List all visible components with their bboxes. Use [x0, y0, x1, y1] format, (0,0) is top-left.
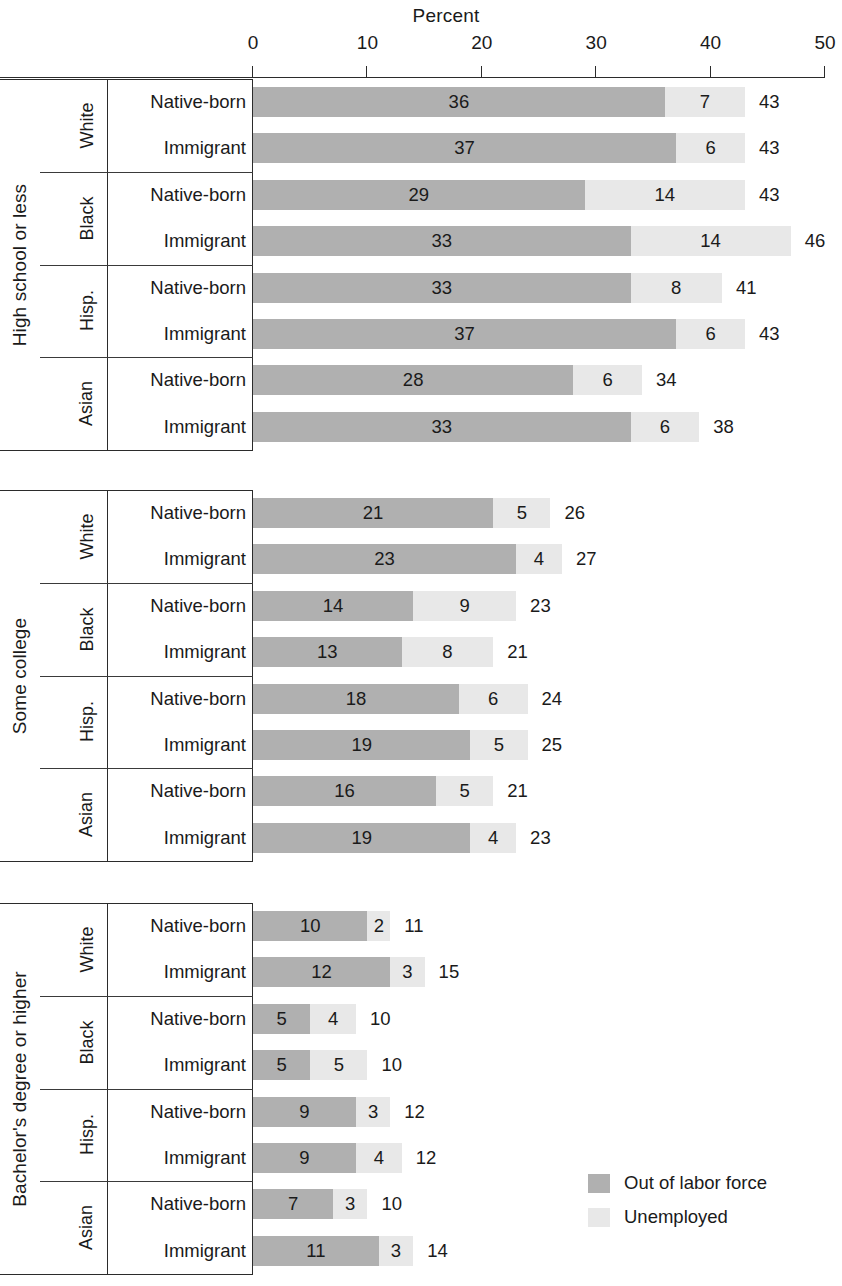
- nativity-label: Immigrant: [112, 536, 246, 582]
- bar-value-unemployed: 5: [474, 730, 524, 760]
- bar-value-total: 21: [507, 637, 528, 667]
- chart-row: Native-born21526: [0, 490, 842, 536]
- bar-value-out-of-labor-force: 29: [394, 180, 444, 210]
- nativity-label: Immigrant: [112, 949, 246, 995]
- chart-row: Immigrant37643: [0, 125, 842, 171]
- bar-value-unemployed: 6: [583, 365, 633, 395]
- section-bottom-rule: [0, 450, 253, 451]
- stacked-bar: [253, 319, 745, 349]
- bar-value-out-of-labor-force: 37: [440, 133, 490, 163]
- chart-row: Native-born9312: [0, 1089, 842, 1135]
- nativity-label: Native-born: [112, 172, 246, 218]
- bar-value-unemployed: 4: [308, 1004, 358, 1034]
- bar-value-total: 10: [370, 1004, 391, 1034]
- bar-value-unemployed: 8: [651, 273, 701, 303]
- bar-value-unemployed: 5: [314, 1050, 364, 1080]
- bar-value-total: 38: [713, 412, 734, 442]
- bar-value-total: 25: [542, 730, 563, 760]
- nativity-label: Native-born: [112, 583, 246, 629]
- bar-value-unemployed: 7: [680, 87, 730, 117]
- stacked-bar-chart: Percent01020304050High school or lessWhi…: [0, 0, 842, 1286]
- nativity-label: Native-born: [112, 903, 246, 949]
- bar-value-unemployed: 14: [686, 226, 736, 256]
- nativity-label: Immigrant: [112, 218, 246, 264]
- chart-row: Native-born14923: [0, 583, 842, 629]
- stacked-bar: [253, 133, 745, 163]
- bar-value-out-of-labor-force: 5: [257, 1050, 307, 1080]
- bar-value-out-of-labor-force: 9: [279, 1097, 329, 1127]
- chart-row: Immigrant23427: [0, 536, 842, 582]
- bar-value-total: 14: [427, 1236, 448, 1266]
- legend-item: Out of labor force: [588, 1168, 838, 1198]
- bar-value-total: 43: [759, 133, 780, 163]
- legend-label: Unemployed: [624, 1206, 728, 1228]
- nativity-label: Immigrant: [112, 1228, 246, 1274]
- chart-row: Immigrant5510: [0, 1042, 842, 1088]
- chart-row: Native-born16521: [0, 768, 842, 814]
- bar-value-total: 23: [530, 591, 551, 621]
- chart-axis-title: Percent: [0, 5, 842, 27]
- bar-value-out-of-labor-force: 33: [417, 273, 467, 303]
- bar-value-unemployed: 6: [686, 319, 736, 349]
- nativity-label: Native-born: [112, 996, 246, 1042]
- chart-row: Immigrant331446: [0, 218, 842, 264]
- nativity-label: Immigrant: [112, 125, 246, 171]
- bar-value-out-of-labor-force: 33: [417, 226, 467, 256]
- bar-value-unemployed: 6: [640, 412, 690, 442]
- chart-row: Immigrant12315: [0, 949, 842, 995]
- legend-swatch-unemployed: [588, 1208, 610, 1227]
- legend-label: Out of labor force: [624, 1172, 767, 1194]
- bar-value-total: 27: [576, 544, 597, 574]
- bar-value-unemployed: 14: [640, 180, 690, 210]
- nativity-label: Immigrant: [112, 722, 246, 768]
- bar-value-unemployed: 5: [497, 498, 547, 528]
- chart-row: Native-born291443: [0, 172, 842, 218]
- bar-value-total: 12: [404, 1097, 425, 1127]
- legend-item: Unemployed: [588, 1202, 838, 1232]
- bar-value-total: 43: [759, 319, 780, 349]
- chart-row: Native-born18624: [0, 676, 842, 722]
- bar-value-total: 21: [507, 776, 528, 806]
- bar-value-total: 43: [759, 87, 780, 117]
- bar-value-out-of-labor-force: 12: [297, 957, 347, 987]
- nativity-label: Native-born: [112, 768, 246, 814]
- bar-value-total: 15: [439, 957, 460, 987]
- bar-value-unemployed: 4: [514, 544, 564, 574]
- chart-row: Native-born33841: [0, 265, 842, 311]
- bar-value-total: 12: [416, 1143, 437, 1173]
- bar-value-unemployed: 8: [422, 637, 472, 667]
- chart-row: Immigrant37643: [0, 311, 842, 357]
- chart-row: Native-born36743: [0, 79, 842, 125]
- chart-legend: Out of labor forceUnemployed: [588, 1168, 838, 1236]
- nativity-label: Immigrant: [112, 404, 246, 450]
- bar-value-out-of-labor-force: 33: [417, 412, 467, 442]
- bar-value-out-of-labor-force: 37: [440, 319, 490, 349]
- x-axis-line: [0, 77, 825, 78]
- nativity-label: Native-born: [112, 1089, 246, 1135]
- bar-value-out-of-labor-force: 19: [337, 730, 387, 760]
- bar-value-out-of-labor-force: 5: [257, 1004, 307, 1034]
- chart-row: Immigrant33638: [0, 404, 842, 450]
- bar-value-total: 34: [656, 365, 677, 395]
- legend-swatch-out-of-labor-force: [588, 1174, 610, 1193]
- nativity-label: Immigrant: [112, 629, 246, 675]
- bar-value-out-of-labor-force: 7: [268, 1189, 318, 1219]
- stacked-bar: [253, 87, 745, 117]
- bar-value-total: 46: [805, 226, 826, 256]
- nativity-label: Native-born: [112, 490, 246, 536]
- chart-row: Native-born28634: [0, 357, 842, 403]
- bar-value-total: 26: [564, 498, 585, 528]
- education-section: Some collegeWhiteNative-born21526Immigra…: [0, 490, 842, 861]
- bar-value-out-of-labor-force: 9: [279, 1143, 329, 1173]
- x-tick-label: 10: [357, 32, 378, 54]
- bar-value-unemployed: 4: [468, 823, 518, 853]
- bar-value-unemployed: 5: [440, 776, 490, 806]
- bar-value-out-of-labor-force: 36: [434, 87, 484, 117]
- bar-value-unemployed: 3: [348, 1097, 398, 1127]
- bar-value-out-of-labor-force: 14: [308, 591, 358, 621]
- bar-value-total: 24: [542, 684, 563, 714]
- x-tick-label: 0: [248, 32, 259, 54]
- section-bottom-rule: [0, 861, 253, 862]
- bar-value-out-of-labor-force: 28: [388, 365, 438, 395]
- education-section: High school or lessWhiteNative-born36743…: [0, 79, 842, 450]
